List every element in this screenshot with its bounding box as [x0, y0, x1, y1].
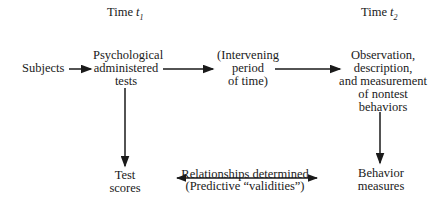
diagram-arrows	[0, 0, 442, 199]
